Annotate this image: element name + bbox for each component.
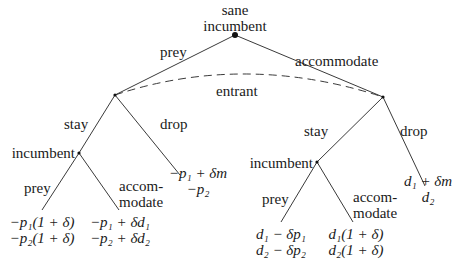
- ll-accom-line1: accom-: [119, 178, 163, 194]
- edge-ll-accommodate: [79, 153, 119, 210]
- payoff-entrant: d₂ − δp₂: [256, 242, 306, 258]
- right-incumbent-label: incumbent: [250, 155, 313, 171]
- edge-label-ll-prey: prey: [24, 180, 51, 196]
- payoff-left-prey: −p₁(1 + δ) −p₂(1 + δ): [10, 214, 75, 246]
- payoff-entrant: −p₂ + δd₂: [90, 230, 150, 246]
- payoff-entrant: d₂: [404, 189, 452, 205]
- left-entrant-node-dot: [113, 93, 116, 96]
- root-node-label: sane incumbent: [203, 2, 266, 34]
- left-incumbent-node-dot: [77, 151, 80, 154]
- edge-label-root-accommodate: accommodate: [295, 53, 378, 69]
- payoff-incumbent: −p₁ + δd₁: [90, 214, 150, 230]
- edge-rl-accommodate: [317, 162, 353, 222]
- root-label-line1: sane: [203, 2, 266, 18]
- payoff-left-drop: −p₁ + δm −p₂: [169, 165, 227, 197]
- root-label-line2: incumbent: [203, 18, 266, 34]
- payoff-entrant: d₂(1 + δ): [329, 242, 384, 258]
- payoff-right-drop: d₁ + δm d₂: [404, 173, 452, 205]
- rl-accom-line1: accom-: [353, 189, 397, 205]
- payoff-incumbent: d₁(1 + δ): [329, 226, 384, 242]
- payoff-incumbent: −p₁ + δm: [169, 165, 227, 181]
- edge-label-right-stay: stay: [304, 123, 328, 139]
- payoff-right-prey: d₁ − δp₁ d₂ − δp₂: [256, 226, 306, 258]
- edge-label-root-prey: prey: [160, 44, 187, 60]
- payoff-entrant: −p₂: [169, 181, 227, 197]
- payoff-entrant: −p₂(1 + δ): [10, 230, 75, 246]
- rl-accom-line2: modate: [353, 205, 397, 221]
- payoff-left-accommodate: −p₁ + δd₁ −p₂ + δd₂: [90, 214, 150, 246]
- payoff-incumbent: −p₁(1 + δ): [10, 214, 75, 230]
- info-set-label-entrant: entrant: [216, 83, 258, 99]
- edge-label-ll-accommodate: accom- modate: [119, 178, 163, 210]
- right-incumbent-node-dot: [315, 160, 318, 163]
- edge-label-left-stay: stay: [64, 116, 88, 132]
- left-incumbent-label: incumbent: [12, 145, 75, 161]
- ll-accom-line2: modate: [119, 194, 163, 210]
- payoff-incumbent: d₁ − δp₁: [256, 226, 306, 242]
- payoff-incumbent: d₁ + δm: [404, 173, 452, 189]
- right-entrant-node-dot: [381, 95, 384, 98]
- edge-label-rl-prey: prey: [262, 191, 289, 207]
- payoff-right-accommodate: d₁(1 + δ) d₂(1 + δ): [329, 226, 384, 258]
- edge-label-rl-accommodate: accom- modate: [353, 189, 397, 221]
- edge-left-drop: [115, 95, 180, 175]
- edge-label-left-drop: drop: [160, 116, 188, 132]
- edge-label-right-drop: drop: [400, 123, 428, 139]
